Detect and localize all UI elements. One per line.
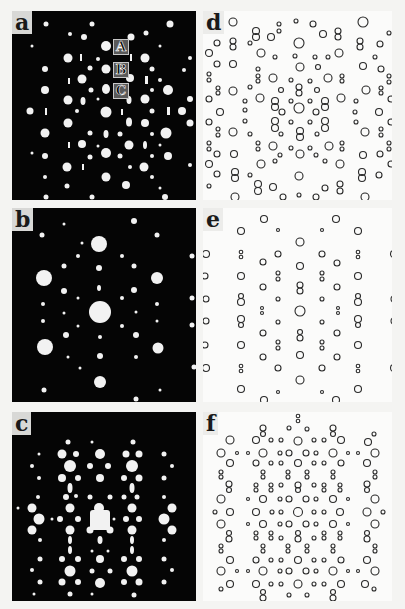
marker-c: C xyxy=(113,83,129,99)
marker-a: A xyxy=(113,39,129,55)
panel-f-simulation: f xyxy=(203,412,392,601)
panel-label-a: a xyxy=(12,11,32,34)
panel-label-b: b xyxy=(12,208,33,231)
diffraction-spots-c xyxy=(12,412,196,601)
panel-label-e: e xyxy=(203,208,223,231)
diffraction-spots-a xyxy=(12,11,196,200)
panel-label-d: d xyxy=(203,11,224,34)
panel-d-simulation: d xyxy=(203,11,392,200)
simulated-rings-d xyxy=(203,11,392,200)
panel-e-simulation: e xyxy=(203,208,392,402)
marker-b: B xyxy=(113,62,129,78)
panel-c-diffraction: c xyxy=(12,412,196,601)
panel-a-diffraction: a A B C xyxy=(12,11,196,200)
diffraction-spots-b xyxy=(12,208,196,402)
simulated-rings-f xyxy=(203,412,392,601)
panel-b-diffraction: b xyxy=(12,208,196,402)
simulated-rings-e xyxy=(203,208,392,402)
panel-label-f: f xyxy=(203,412,218,435)
panel-label-c: c xyxy=(12,412,31,435)
